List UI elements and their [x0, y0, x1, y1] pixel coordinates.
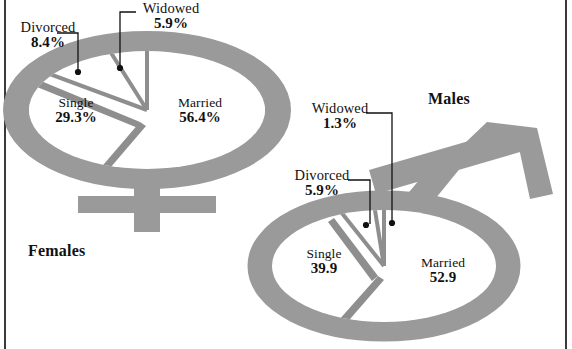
male-widowed-category: Widowed: [296, 101, 384, 116]
female-married-value: 56.4%: [157, 110, 243, 125]
male-dot-divorced: [363, 222, 369, 228]
male-label-married: Married 52.9: [401, 256, 485, 285]
male-single-category: Single: [284, 247, 364, 261]
female-widowed-value: 5.9%: [125, 16, 217, 31]
female-single-category: Single: [33, 96, 119, 110]
female-dot-widowed: [117, 65, 123, 71]
male-widowed-value: 1.3%: [296, 116, 384, 131]
female-label-widowed: Widowed 5.9%: [125, 1, 217, 31]
male-dot-widowed: [389, 220, 395, 226]
female-widowed-category: Widowed: [125, 1, 217, 16]
male-single-value: 39.9: [284, 261, 364, 276]
female-label-single: Single 29.3%: [33, 96, 119, 125]
males-title: Males: [428, 90, 470, 108]
female-married-category: Married: [157, 96, 243, 110]
male-divorced-category: Divorced: [278, 168, 366, 183]
female-divorced-category: Divorced: [2, 20, 94, 35]
female-single-value: 29.3%: [33, 110, 119, 125]
female-dot-divorced: [75, 69, 81, 75]
female-crossbar: [78, 196, 216, 213]
females-title: Females: [28, 242, 85, 260]
male-symbol: [260, 122, 553, 334]
male-divorced-value: 5.9%: [278, 183, 366, 198]
female-symbol: [16, 40, 278, 232]
female-label-divorced: Divorced 8.4%: [2, 20, 94, 50]
male-label-divorced: Divorced 5.9%: [278, 168, 366, 198]
female-label-married: Married 56.4%: [157, 96, 243, 125]
male-married-value: 52.9: [401, 270, 485, 285]
male-label-single: Single 39.9: [284, 247, 364, 276]
male-married-category: Married: [401, 256, 485, 270]
infographic-canvas: Divorced 8.4% Widowed 5.9% Single 29.3% …: [0, 0, 572, 349]
male-label-widowed: Widowed 1.3%: [296, 101, 384, 131]
female-divorced-value: 8.4%: [2, 35, 94, 50]
